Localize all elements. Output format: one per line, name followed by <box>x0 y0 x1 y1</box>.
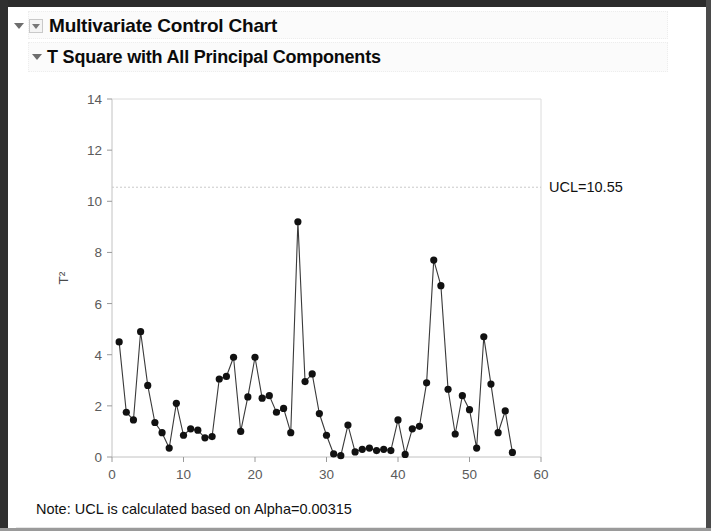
x-tick-label: 20 <box>247 467 262 482</box>
data-point[interactable] <box>444 386 451 393</box>
data-point[interactable] <box>209 433 216 440</box>
data-point[interactable] <box>473 444 480 451</box>
data-point[interactable] <box>409 425 416 432</box>
data-point[interactable] <box>430 257 437 264</box>
x-tick-label: 10 <box>176 467 191 482</box>
data-point[interactable] <box>130 416 137 423</box>
data-point[interactable] <box>230 354 237 361</box>
data-point[interactable] <box>194 427 201 434</box>
data-point[interactable] <box>466 406 473 413</box>
report-window: Multivariate Control Chart T Square with… <box>0 0 711 531</box>
data-point[interactable] <box>359 446 366 453</box>
data-point[interactable] <box>309 370 316 377</box>
data-point[interactable] <box>509 449 516 456</box>
x-tick-label: 60 <box>533 467 548 482</box>
multivariate-control-chart[interactable]: 024681012140102030405060SampleT²UCL=10.5… <box>14 75 686 485</box>
data-point[interactable] <box>144 382 151 389</box>
triangle-down-icon[interactable] <box>32 54 42 60</box>
data-point[interactable] <box>301 378 308 385</box>
data-point[interactable] <box>402 451 409 458</box>
data-points[interactable] <box>116 218 516 459</box>
ucl-label: UCL=10.55 <box>549 179 623 195</box>
data-point[interactable] <box>502 407 509 414</box>
data-point[interactable] <box>387 447 394 454</box>
data-line <box>119 222 512 456</box>
data-point[interactable] <box>280 405 287 412</box>
data-point[interactable] <box>373 447 380 454</box>
data-point[interactable] <box>437 282 444 289</box>
data-point[interactable] <box>158 429 165 436</box>
outline-row-multivariate-control-chart[interactable]: Multivariate Control Chart <box>14 12 686 40</box>
data-point[interactable] <box>123 409 130 416</box>
data-point[interactable] <box>180 432 187 439</box>
window-frame-top <box>0 0 711 7</box>
data-point[interactable] <box>237 428 244 435</box>
data-point[interactable] <box>344 421 351 428</box>
data-point[interactable] <box>259 395 266 402</box>
data-point[interactable] <box>459 392 466 399</box>
window-frame-left <box>0 0 8 531</box>
y-tick-label: 14 <box>87 92 103 107</box>
y-tick-label: 8 <box>94 245 102 260</box>
data-point[interactable] <box>151 419 158 426</box>
data-point[interactable] <box>366 444 373 451</box>
data-point[interactable] <box>244 393 251 400</box>
triangle-down-icon[interactable] <box>14 23 24 29</box>
data-point[interactable] <box>487 381 494 388</box>
data-point[interactable] <box>116 338 123 345</box>
data-point[interactable] <box>173 400 180 407</box>
y-axis-title: T² <box>56 271 71 284</box>
data-point[interactable] <box>251 354 258 361</box>
data-point[interactable] <box>166 444 173 451</box>
x-tick-label: 50 <box>462 467 477 482</box>
data-point[interactable] <box>452 430 459 437</box>
data-point[interactable] <box>323 432 330 439</box>
data-point[interactable] <box>137 328 144 335</box>
x-tick-label: 30 <box>319 467 334 482</box>
data-point[interactable] <box>201 434 208 441</box>
section-title: T Square with All Principal Components <box>47 47 381 68</box>
x-tick-label: 40 <box>390 467 405 482</box>
chart-note: Note: UCL is calculated based on Alpha=0… <box>36 501 352 517</box>
y-tick-label: 2 <box>94 399 102 414</box>
data-point[interactable] <box>187 425 194 432</box>
footer-divider <box>16 527 706 528</box>
data-point[interactable] <box>416 423 423 430</box>
data-point[interactable] <box>352 448 359 455</box>
data-point[interactable] <box>394 416 401 423</box>
data-point[interactable] <box>273 409 280 416</box>
data-point[interactable] <box>330 450 337 457</box>
data-point[interactable] <box>216 375 223 382</box>
report-body: Multivariate Control Chart T Square with… <box>8 7 706 528</box>
data-point[interactable] <box>480 333 487 340</box>
data-point[interactable] <box>316 410 323 417</box>
data-point[interactable] <box>495 429 502 436</box>
data-point[interactable] <box>266 392 273 399</box>
triangle-down-boxed-icon[interactable] <box>29 19 43 33</box>
y-tick-label: 0 <box>94 450 102 465</box>
t-square-control-chart-svg[interactable]: 024681012140102030405060SampleT²UCL=10.5… <box>14 75 686 485</box>
data-point[interactable] <box>380 446 387 453</box>
data-point[interactable] <box>294 218 301 225</box>
data-point[interactable] <box>287 429 294 436</box>
outline-row-t-square[interactable]: T Square with All Principal Components <box>14 43 686 71</box>
y-tick-label: 12 <box>87 143 102 158</box>
x-tick-label: 0 <box>108 467 116 482</box>
window-frame-right <box>706 0 711 531</box>
y-tick-label: 10 <box>87 194 102 209</box>
data-point[interactable] <box>223 373 230 380</box>
y-tick-label: 6 <box>94 297 102 312</box>
data-point[interactable] <box>337 452 344 459</box>
y-tick-label: 4 <box>94 348 102 363</box>
data-point[interactable] <box>423 379 430 386</box>
outline-title: Multivariate Control Chart <box>49 15 277 37</box>
